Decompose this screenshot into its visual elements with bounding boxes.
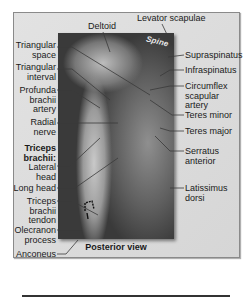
divider-line: [22, 295, 230, 297]
leader-lines: [0, 0, 252, 299]
figure-caption: Posterior view: [58, 242, 174, 252]
